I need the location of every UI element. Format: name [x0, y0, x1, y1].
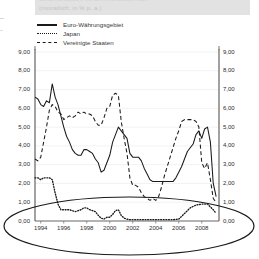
plot-svg [0, 0, 259, 259]
gridlines [35, 52, 219, 202]
y-axis-tick-left: 8,00 [8, 67, 30, 73]
y-axis-tick-right: 0,00 [223, 218, 245, 224]
x-axis-tick: 1996 [52, 225, 76, 231]
x-axis-tick: 2004 [144, 225, 168, 231]
y-axis-tick-right: 4,00 [223, 142, 245, 148]
y-axis-tick-right: 6,00 [223, 105, 245, 111]
y-axis-tick-left: 6,00 [8, 105, 30, 111]
y-axis-tick-left: 7,00 [8, 86, 30, 92]
x-axis-tick: 1998 [75, 225, 99, 231]
y-axis-tick-left: 5,00 [8, 124, 30, 130]
y-axis-tick-right: 5,00 [223, 124, 245, 130]
y-axis-tick-left: 9,00 [8, 49, 30, 55]
x-axis-tick: 2008 [190, 225, 214, 231]
y-axis-tick-right: 9,00 [223, 49, 245, 55]
x-axis-tick: 1994 [29, 225, 53, 231]
y-axis-tick-left: 0,00 [8, 218, 30, 224]
y-axis-tick-left: 2,00 [8, 180, 30, 186]
data-series-layer [35, 84, 216, 220]
y-axis-tick-left: 1,00 [8, 199, 30, 205]
y-axis-tick-right: 2,00 [223, 180, 245, 186]
y-axis-tick-right: 3,00 [223, 161, 245, 167]
y-axis-tick-right: 7,00 [223, 86, 245, 92]
y-axis-tick-left: 3,00 [8, 161, 30, 167]
plot-area: 9,008,007,006,005,004,003,002,001,000,00… [0, 0, 259, 259]
y-axis-tick-left: 4,00 [8, 142, 30, 148]
chart-figure: Geldmarktsätze im Dreimonatsbereich (mon… [0, 0, 259, 259]
y-axis-tick-right: 1,00 [223, 199, 245, 205]
y-axis-tick-right: 8,00 [223, 67, 245, 73]
x-axis-tick: 2002 [121, 225, 145, 231]
x-axis-tick: 2000 [98, 225, 122, 231]
x-axis-tick: 2006 [167, 225, 191, 231]
